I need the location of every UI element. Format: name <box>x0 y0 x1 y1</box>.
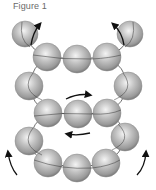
sphere-mid-left <box>15 72 43 100</box>
sphere-low-left <box>15 127 43 155</box>
arrow-middle-left-icon <box>67 133 90 135</box>
spheres <box>12 21 143 182</box>
arrow-bottom-right-icon <box>137 152 146 175</box>
arrow-middle-right-icon <box>66 95 90 100</box>
sphere-bottom-row-3 <box>92 149 120 177</box>
sphere-chain-diagram <box>0 0 156 190</box>
sphere-mid-row-1 <box>34 99 62 127</box>
sphere-mid-row-3 <box>93 99 121 127</box>
arrow-bottom-left-icon <box>8 152 17 175</box>
sphere-top-row-3 <box>93 43 121 71</box>
